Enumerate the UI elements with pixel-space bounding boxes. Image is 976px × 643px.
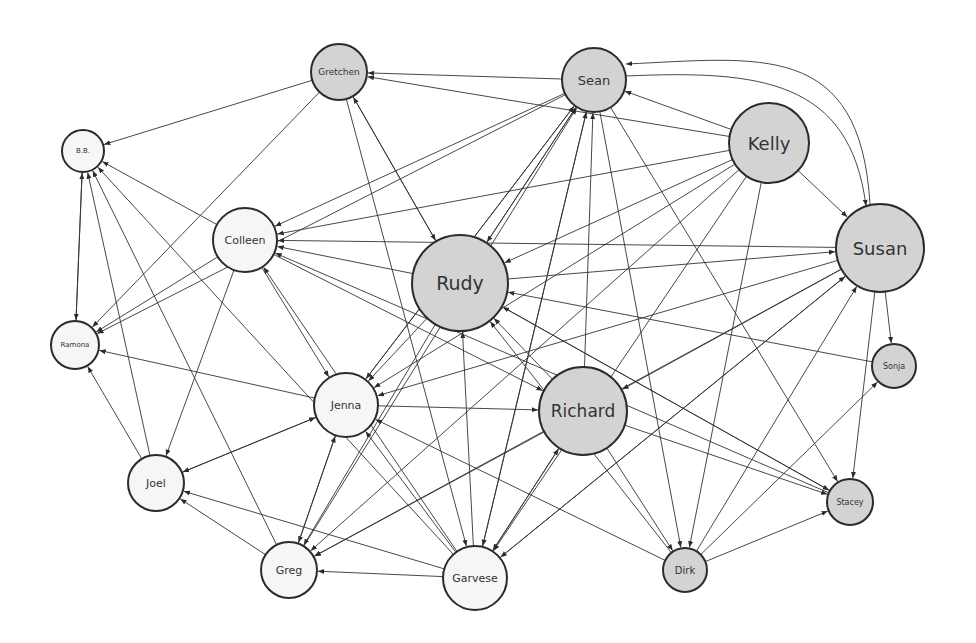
edge-stacey-to-colleen	[275, 253, 829, 493]
node-label: Sonja	[883, 362, 905, 371]
node-greg: Greg	[261, 542, 317, 598]
edge-jenna-to-richard	[378, 406, 538, 410]
node-label: Rudy	[436, 272, 484, 294]
node-richard: Richard	[539, 367, 627, 455]
node-label: Stacey	[836, 498, 863, 507]
edge-kelly-to-dirk	[689, 182, 761, 547]
edge-sean-to-colleen	[275, 93, 565, 226]
edge-susan-to-sonja	[885, 292, 891, 344]
node-label: Kelly	[748, 133, 791, 154]
edge-richard-to-greg	[315, 432, 545, 556]
node-dirk: Dirk	[663, 548, 707, 592]
edge-colleen-to-jenna	[262, 267, 329, 377]
node-label: Colleen	[224, 234, 265, 247]
node-sonja: Sonja	[872, 344, 916, 388]
edge-susan-to-richard	[622, 269, 841, 389]
edge-kelly-to-susan	[798, 171, 847, 218]
node-garvese: Garvese	[443, 546, 507, 610]
edge-rudy-to-susan	[508, 252, 835, 279]
node-gretchen: Gretchen	[311, 44, 367, 100]
edge-kelly-to-gretchen	[368, 77, 730, 137]
edge-kelly-to-garvese	[494, 176, 747, 551]
node-susan: Susan	[836, 204, 924, 292]
node-label: Gretchen	[318, 67, 359, 77]
edge-garvese-to-sean	[482, 112, 586, 547]
node-label: Richard	[551, 401, 616, 421]
edge-garvese-to-rudy	[463, 332, 474, 546]
edge-garvese-to-greg	[318, 571, 443, 576]
edge-joel-to-bb	[88, 173, 150, 456]
node-ramona: Ramona	[51, 321, 99, 369]
edge-rudy-to-gretchen	[353, 97, 436, 241]
edge-gretchen-to-ramona	[92, 92, 319, 327]
edge-rudy-to-greg	[304, 324, 436, 545]
node-label: Greg	[276, 564, 303, 577]
edge-susan-to-stacey	[853, 292, 875, 479]
network-diagram: GretchenSeanKellyB.B.ColleenRudySusanRam…	[0, 0, 976, 643]
node-label: Dirk	[675, 565, 696, 576]
node-label: Garvese	[452, 572, 498, 585]
node-label: Susan	[853, 238, 908, 259]
edge-sean-to-dirk	[600, 112, 681, 548]
node-label: Jenna	[330, 399, 362, 412]
edge-bb-to-ramona	[76, 172, 82, 320]
edge-dirk-to-stacey	[705, 511, 828, 561]
edge-joel-to-jenna	[182, 418, 316, 473]
node-stacey: Stacey	[827, 479, 873, 525]
node-rudy: Rudy	[412, 235, 508, 331]
edge-colleen-to-joel	[166, 270, 234, 456]
edge-colleen-to-bb	[102, 162, 217, 225]
node-jenna: Jenna	[314, 373, 378, 437]
node-label: Ramona	[61, 341, 90, 349]
edge-gretchen-to-bb	[104, 80, 312, 144]
edge-richard-to-sean	[585, 113, 593, 367]
edge-greg-to-joel	[180, 499, 265, 555]
node-label: Sean	[578, 73, 610, 88]
node-label: B.B.	[76, 147, 90, 155]
node-colleen: Colleen	[213, 208, 277, 272]
edge-garvese-to-jenna	[366, 432, 456, 553]
node-bb: B.B.	[62, 130, 104, 172]
edge-dirk-to-sonja	[701, 382, 878, 554]
node-joel: Joel	[128, 455, 184, 511]
edge-richard-to-stacey	[625, 425, 828, 494]
node-kelly: Kelly	[729, 103, 809, 183]
node-label: Joel	[145, 477, 166, 490]
edge-susan-to-colleen	[278, 240, 836, 247]
edge-kelly-to-sean	[625, 91, 731, 129]
edge-sean-to-gretchen	[368, 73, 562, 79]
edge-rudy-to-colleen	[277, 247, 413, 274]
edge-rudy-to-jenna	[369, 318, 428, 381]
node-sean: Sean	[562, 48, 626, 112]
edge-richard-to-dirk	[607, 448, 673, 551]
